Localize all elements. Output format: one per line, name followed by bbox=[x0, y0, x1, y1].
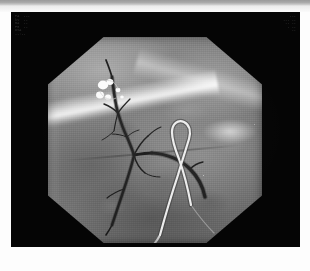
screenshot-root: PA ---kV --mA --FR --DSA--:-- ------ ---… bbox=[0, 0, 310, 271]
overlay-text-top-right: ------ ---- --- ---- bbox=[283, 15, 296, 33]
overlay-text-top-left: PA ---kV --mA --FR --DSA--:-- bbox=[15, 15, 30, 37]
embolization-coils-overlay bbox=[48, 37, 262, 243]
overlay-text-line: -- bbox=[283, 29, 296, 33]
image-viewport[interactable]: PA ---kV --mA --FR --DSA--:-- ------ ---… bbox=[11, 12, 300, 247]
collimated-radiograph-field bbox=[48, 37, 262, 243]
overlay-text-line: --:-- bbox=[15, 33, 30, 37]
